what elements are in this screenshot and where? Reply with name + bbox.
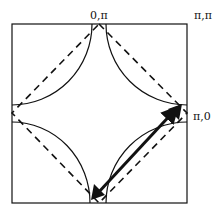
fermi-arc-top-right xyxy=(106,24,187,105)
label-pi-pi: π,π xyxy=(194,10,212,21)
label-pi-0: π,0 xyxy=(193,111,211,122)
fermi-arc-bottom-right xyxy=(106,122,187,203)
arrow-head-top-right xyxy=(168,104,182,120)
label-0-pi: 0,π xyxy=(90,10,108,21)
nesting-vector-arrow xyxy=(97,110,175,194)
brillouin-zone-diagram xyxy=(0,0,221,211)
fermi-arc-bottom-left xyxy=(12,122,90,203)
zone-boundary-square xyxy=(12,24,187,203)
magnetic-zone-boundary-dashed xyxy=(12,24,187,203)
fermi-arc-top-left xyxy=(12,24,92,105)
